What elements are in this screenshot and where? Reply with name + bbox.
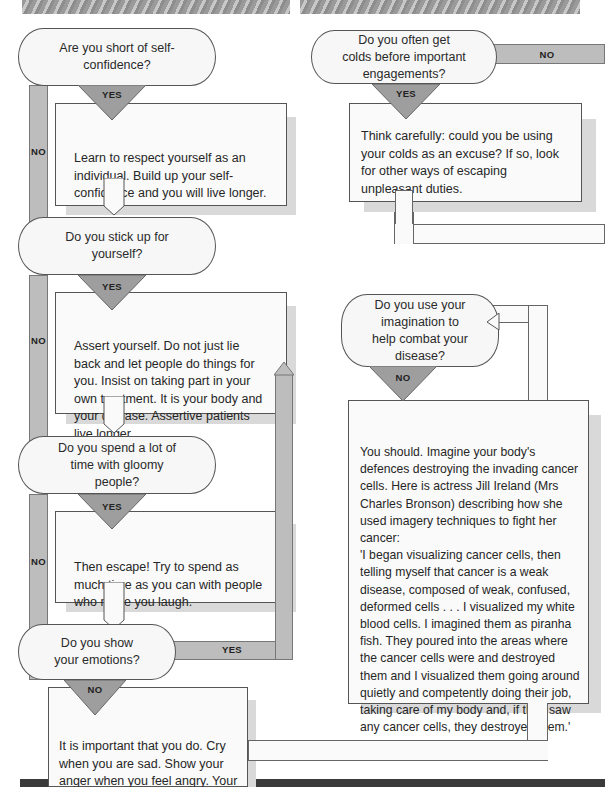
imagination-advice-intro: You should. Imagine your body's defences…	[360, 444, 582, 547]
question-show-emotions: Do you show your emotions?	[18, 624, 176, 680]
down-connector-2	[103, 396, 125, 434]
top-decorative-band-left	[22, 0, 290, 14]
colds-exit-inner	[395, 190, 413, 224]
yes-label-colds: YES	[384, 88, 428, 99]
no-label-imagination: NO	[381, 372, 425, 383]
up-arrow-imagination	[274, 362, 294, 376]
no-label-2: NO	[29, 335, 48, 346]
down-connector-3	[103, 582, 125, 630]
question-imagination: Do you use your imagination to help comb…	[341, 294, 499, 367]
question-text: Are you short of self-confidence?	[57, 40, 177, 74]
no-label-colds: NO	[525, 49, 569, 60]
question-self-confidence: Are you short of self-confidence?	[18, 28, 216, 86]
return-connector-h	[248, 740, 548, 761]
top-decorative-band-right	[300, 0, 580, 14]
colds-exit-connector-h	[394, 224, 605, 244]
loop-arrow-into-imagination	[486, 313, 500, 331]
no-label-emotions: NO	[73, 684, 117, 695]
question-gloomy-people: Do you spend a lot of time with gloomy p…	[18, 436, 216, 494]
question-stick-up: Do you stick up for yourself?	[18, 217, 216, 275]
no-label-3: NO	[29, 556, 48, 567]
yes-arrow-3	[78, 494, 146, 530]
imagination-loop-right	[528, 305, 548, 401]
return-connector-h-fill	[528, 741, 547, 760]
yes-label-3: YES	[90, 501, 134, 512]
down-connector-1	[103, 178, 125, 216]
jill-ireland-quote: 'I began visualizing cancer cells, then …	[360, 547, 582, 736]
advice-box-imagination: You should. Imagine your body's defences…	[348, 400, 589, 704]
question-colds: Do you often get colds before important …	[311, 30, 497, 84]
no-label-1: NO	[29, 146, 48, 157]
yes-connector-vertical	[275, 373, 293, 660]
yes-label-1: YES	[90, 89, 134, 100]
yes-label-emotions: YES	[210, 644, 254, 655]
yes-label-2: YES	[90, 281, 134, 292]
